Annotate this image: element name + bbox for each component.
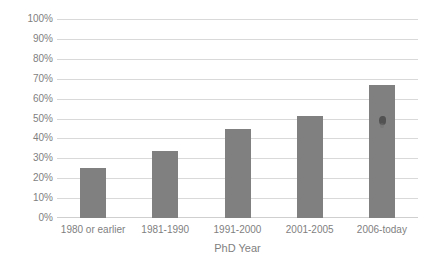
x-axis: 1980 or earlier1981-19901991-20002001-20… bbox=[57, 224, 418, 240]
y-tick-label: 90% bbox=[0, 34, 53, 44]
x-tick-label: 2001-2005 bbox=[274, 224, 346, 236]
y-tick-label: 10% bbox=[0, 193, 53, 203]
x-tick-label: 1980 or earlier bbox=[57, 224, 129, 236]
gridline bbox=[57, 99, 418, 100]
bar[interactable] bbox=[152, 151, 178, 218]
gridline bbox=[57, 39, 418, 40]
x-tick-label: 2006-today bbox=[346, 224, 418, 236]
gridline bbox=[57, 79, 418, 80]
y-tick-label: 70% bbox=[0, 74, 53, 84]
y-tick-label: 80% bbox=[0, 54, 53, 64]
bar-chart: 0%10%20%30%40%50%60%70%80%90%100% 1980 o… bbox=[0, 0, 436, 266]
y-tick-label: 30% bbox=[0, 153, 53, 163]
y-tick-label: 60% bbox=[0, 94, 53, 104]
x-axis-title: PhD Year bbox=[57, 242, 418, 255]
bar[interactable] bbox=[297, 116, 323, 218]
x-tick-label: 1991-2000 bbox=[201, 224, 273, 236]
gridline bbox=[57, 19, 418, 20]
gridline bbox=[57, 119, 418, 120]
y-tick-label: 100% bbox=[0, 14, 53, 24]
gridline bbox=[57, 59, 418, 60]
bar[interactable] bbox=[369, 85, 395, 218]
bar[interactable] bbox=[225, 129, 251, 218]
y-axis: 0%10%20%30%40%50%60%70%80%90%100% bbox=[0, 19, 53, 218]
bar[interactable] bbox=[80, 168, 106, 218]
y-tick-label: 50% bbox=[0, 114, 53, 124]
y-tick-label: 40% bbox=[0, 133, 53, 143]
plot-area bbox=[57, 19, 418, 218]
y-tick-label: 0% bbox=[0, 213, 53, 223]
y-tick-label: 20% bbox=[0, 173, 53, 183]
x-tick-label: 1981-1990 bbox=[129, 224, 201, 236]
